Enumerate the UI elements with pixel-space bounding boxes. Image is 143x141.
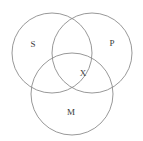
- venn-diagram-canvas: S P M X: [0, 0, 143, 141]
- label-s: S: [30, 39, 35, 49]
- label-m: M: [67, 107, 75, 117]
- label-x-mark: X: [80, 68, 87, 78]
- venn-diagram-svg: S P M X: [0, 0, 143, 141]
- diagram-background: [0, 0, 143, 141]
- label-p: P: [109, 38, 114, 48]
